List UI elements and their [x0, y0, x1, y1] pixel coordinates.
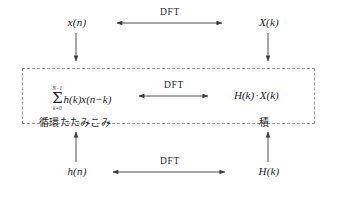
node-x-of-n: x(n) [56, 16, 98, 28]
label-dft-bottom: DFT [144, 156, 196, 166]
product-right-factor: X(k) [260, 89, 279, 101]
node-H-of-k: H(k) [248, 165, 290, 177]
summation-body: h(k)x(n−k) [64, 93, 112, 105]
expr-product: H(k)·X(k) [234, 89, 279, 101]
annotation-product: 積 [259, 114, 269, 129]
expr-circular-convolution: N−1 Σ k=0 h(k)x(n−k) [52, 86, 111, 111]
summation-operator: N−1 Σ k=0 [52, 86, 63, 111]
label-dft-middle: DFT [148, 80, 200, 90]
node-X-of-k: X(k) [248, 16, 290, 28]
diagram-canvas: x(n) DFT X(k) N−1 Σ k=0 h(k)x(n−k) DFT H… [0, 0, 339, 199]
sigma-icon: Σ [52, 91, 63, 106]
annotation-circular-convolution: 循環たたみこみ [39, 114, 111, 129]
product-left-factor: H(k) [234, 89, 254, 101]
node-h-of-n: h(n) [56, 165, 98, 177]
summation-lower-limit: k=0 [53, 106, 61, 111]
label-dft-top: DFT [144, 7, 196, 17]
